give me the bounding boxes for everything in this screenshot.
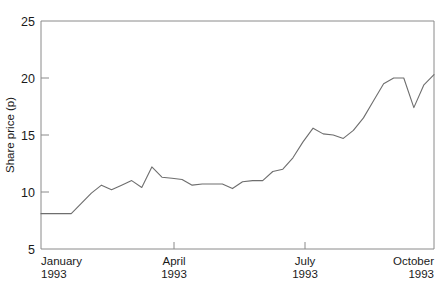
plot-frame [41,21,434,249]
x-tick-label-april-month: April [162,255,185,267]
y-axis-title: Share price (p) [4,97,16,173]
share-price-line-chart: 25 20 15 10 5 Share price (p) January 19… [0,0,446,290]
x-tick-label-october-month: October [393,255,434,267]
x-tick-label-july-month: July [295,255,316,267]
x-tick-label-july-year: 1993 [292,268,318,280]
y-tick-label-20: 20 [21,72,35,86]
x-tick-label-january-month: January [41,255,82,267]
share-price-series-line [41,75,434,214]
x-axis-tick-labels: January 1993 April 1993 July 1993 Octobe… [41,255,434,280]
chart-canvas: 25 20 15 10 5 Share price (p) January 19… [0,0,446,290]
y-tick-label-5: 5 [28,243,35,257]
y-tick-label-25: 25 [21,15,35,29]
y-axis-tick-labels: 25 20 15 10 5 [21,15,35,257]
x-tick-label-april-year: 1993 [161,268,187,280]
x-tick-label-october-year: 1993 [408,268,434,280]
y-tick-label-15: 15 [21,129,35,143]
y-tick-label-10: 10 [21,186,35,200]
x-tick-label-january-year: 1993 [41,268,67,280]
y-axis-ticks [41,78,49,192]
x-axis-ticks [174,242,305,249]
